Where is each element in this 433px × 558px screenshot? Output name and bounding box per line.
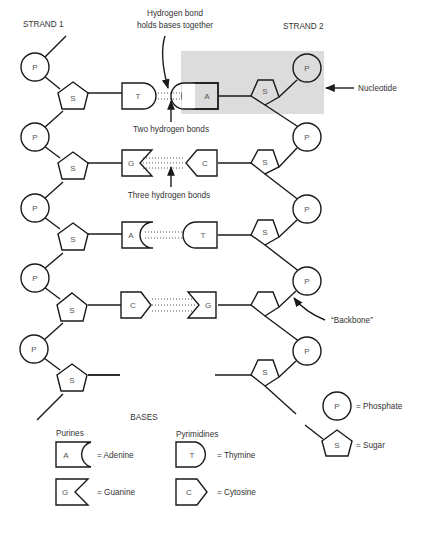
strand2-sugar: S (251, 220, 279, 245)
svg-text:P: P (304, 347, 309, 356)
svg-text:= Adenine: = Adenine (97, 451, 134, 460)
two-bonds-label: Two hydrogen bonds (133, 125, 209, 134)
base-pair-4: C G (121, 292, 216, 318)
svg-text:T: T (136, 92, 141, 101)
legend-adenine: A = Adenine (56, 442, 134, 467)
base-cytosine: C (186, 150, 217, 176)
strand1-sugar: S (57, 364, 87, 391)
svg-text:P: P (304, 64, 309, 73)
strand2-phosphate: P (293, 54, 321, 82)
strand2-label: STRAND 2 (283, 22, 324, 31)
svg-text:S: S (262, 87, 267, 96)
base-guanine: G (122, 150, 152, 176)
svg-text:= Sugar: = Sugar (356, 441, 385, 450)
strand1-sugar: S (58, 152, 88, 179)
legend-cytosine: C = Cytosine (176, 479, 256, 505)
strand2-sugar (251, 292, 279, 316)
base-adenine: A (171, 83, 218, 109)
strand1-phosphate: P (21, 53, 49, 81)
legend-thymine: T = Thymine (176, 442, 256, 467)
purines-title: Purines (56, 429, 84, 438)
strand1-sugar: S (58, 82, 88, 109)
svg-text:S: S (70, 235, 75, 244)
backbone-arrow-icon (294, 298, 325, 320)
base-thymine: T (183, 222, 217, 248)
svg-text:G: G (205, 301, 211, 310)
svg-text:P: P (334, 402, 339, 411)
svg-text:C: C (202, 159, 208, 168)
svg-text:P: P (304, 133, 309, 142)
strand1-phosphate: P (21, 264, 49, 292)
svg-text:= Guanine: = Guanine (97, 488, 135, 497)
strand1-phosphate: P (20, 335, 48, 363)
hbond-title-line1: Hydrogen bond (147, 9, 203, 18)
svg-text:C: C (130, 301, 136, 310)
svg-text:P: P (304, 205, 309, 214)
strand1-sugar: S (57, 293, 87, 321)
svg-text:S: S (70, 164, 75, 173)
hydrogen-bonds-3 (152, 299, 196, 311)
svg-text:P: P (304, 277, 309, 286)
strand2-phosphate: P (293, 195, 321, 223)
pyrimidines-title: Pyrimidines (176, 430, 218, 439)
legend-guanine: G = Guanine (56, 479, 135, 505)
svg-text:S: S (262, 228, 267, 237)
svg-text:= Thymine: = Thymine (217, 451, 256, 460)
base-adenine: A (122, 222, 153, 248)
backbone-label: “Backbone” (331, 316, 373, 325)
svg-text:S: S (70, 94, 75, 103)
strand2-sugar: S (251, 360, 279, 386)
nucleotide-label: Nucleotide (358, 84, 397, 93)
svg-text:S: S (262, 368, 267, 377)
svg-text:A: A (128, 231, 134, 240)
svg-text:P: P (32, 274, 37, 283)
svg-text:G: G (128, 159, 134, 168)
svg-text:P: P (32, 204, 37, 213)
base-pair-1: T A (122, 83, 218, 109)
legend-sugar: S = Sugar (305, 425, 385, 456)
base-thymine: T (122, 83, 156, 109)
legend-phosphate: P = Phosphate (323, 392, 403, 420)
dna-structure-diagram: STRAND 1 STRAND 2 Hydrogen bond holds ba… (0, 0, 433, 558)
bases-title: BASES (130, 413, 158, 422)
svg-text:P: P (32, 63, 37, 72)
svg-text:A: A (63, 451, 69, 460)
svg-text:S: S (69, 306, 74, 315)
strand1-sugar: S (58, 223, 88, 250)
three-bonds-label: Three hydrogen bonds (128, 191, 210, 200)
svg-text:G: G (62, 488, 68, 497)
svg-text:S: S (69, 376, 74, 385)
base-pair-3: A T (122, 222, 217, 248)
strand1-phosphate: P (21, 123, 49, 151)
svg-text:S: S (334, 441, 339, 450)
strand1-phosphate: P (21, 194, 49, 222)
svg-text:= Phosphate: = Phosphate (356, 402, 403, 411)
base-cytosine: C (121, 292, 151, 318)
base-guanine: G (188, 292, 216, 318)
hydrogen-bonds-2 (145, 232, 182, 238)
hbond-title-line2: holds bases together (137, 21, 213, 30)
strand2-phosphate: P (293, 267, 321, 295)
svg-text:C: C (186, 488, 192, 497)
svg-text:A: A (204, 92, 210, 101)
strand2-phosphate: P (293, 123, 321, 151)
svg-text:P: P (32, 133, 37, 142)
strand2-phosphate: P (293, 337, 321, 365)
hbond-arrow-down-icon (163, 36, 168, 88)
svg-text:T: T (190, 451, 195, 460)
hydrogen-bonds-3 (143, 158, 185, 168)
strand2-sugar: S (251, 150, 279, 174)
svg-text:P: P (31, 345, 36, 354)
svg-text:= Cytosine: = Cytosine (217, 488, 256, 497)
svg-text:S: S (262, 158, 267, 167)
strand1-label: STRAND 1 (23, 20, 64, 29)
base-pair-2: G C (122, 150, 217, 176)
svg-text:T: T (201, 231, 206, 240)
